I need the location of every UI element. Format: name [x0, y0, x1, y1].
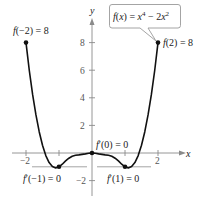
y-axis-label: y — [89, 5, 95, 16]
label-origin: f′(0) = 0 — [96, 139, 128, 151]
tick-x-2: 2 — [155, 156, 160, 166]
callout-text: f(x) = x4 − 2x2 — [113, 10, 170, 23]
x-axis-arrow-icon — [179, 151, 186, 156]
function-graph: y x −2 2 8 6 4 2 −2 f(−2) = 8 f(2) = 8 f… — [0, 0, 205, 201]
point-right-min — [123, 165, 128, 170]
tick-y-8: 8 — [80, 38, 85, 48]
x-axis-label: x — [185, 148, 191, 159]
label-left-endpoint: f(−2) = 8 — [13, 25, 49, 37]
tick-y-2: 2 — [80, 121, 85, 131]
y-axis — [89, 18, 95, 196]
tick-y-6: 6 — [80, 66, 85, 76]
point-right-endpoint — [156, 40, 161, 45]
tick-y-neg2: −2 — [76, 176, 86, 186]
point-origin — [90, 151, 95, 156]
point-left-endpoint — [24, 40, 29, 45]
tick-x-neg2: −2 — [20, 156, 30, 166]
x-axis — [12, 150, 186, 156]
y-axis-arrow-icon — [90, 18, 95, 25]
label-right-endpoint: f(2) = 8 — [163, 37, 193, 49]
point-left-min — [57, 165, 62, 170]
label-left-min: f′(−1) = 0 — [23, 173, 61, 185]
tick-y-4: 4 — [80, 93, 85, 103]
label-right-min: f′(1) = 0 — [107, 173, 139, 185]
